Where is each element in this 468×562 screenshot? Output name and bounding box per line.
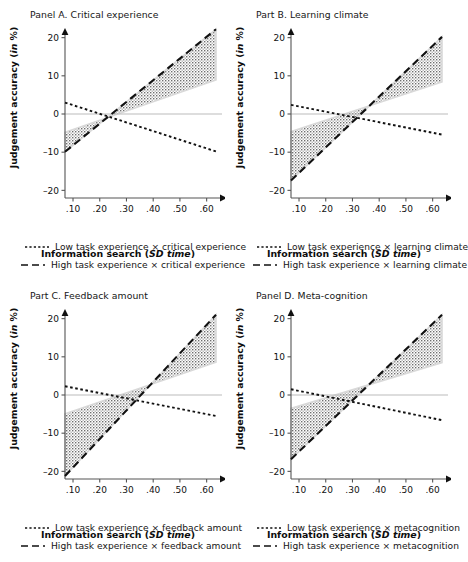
svg-text:.40: .40	[372, 485, 387, 495]
legend-item-low: Low task experience × feedback amount	[0, 519, 225, 537]
legend-label-low: Low task experience × critical experienc…	[55, 242, 246, 252]
panel-d-legend: Low task experience × metacognition High…	[226, 519, 451, 555]
legend-label-high: High task experience × critical experien…	[51, 260, 245, 270]
svg-text:10: 10	[48, 71, 60, 81]
svg-text:.30: .30	[345, 485, 360, 495]
svg-text:.10: .10	[66, 485, 81, 495]
svg-text:0: 0	[279, 390, 285, 400]
svg-text:–10: –10	[269, 428, 285, 438]
panel-d: Panel D. Meta-cognition Judgement accura…	[226, 281, 451, 562]
svg-text:.30: .30	[345, 204, 360, 214]
dashed-line-key-icon	[20, 260, 46, 270]
svg-text:10: 10	[48, 352, 60, 362]
svg-text:–10: –10	[43, 147, 59, 157]
legend-label-low: Low task experience × learning climate	[287, 242, 468, 252]
legend-item-low: Low task experience × metacognition	[226, 519, 451, 537]
dotted-line-key-icon	[256, 523, 282, 533]
svg-text:0: 0	[279, 109, 285, 119]
svg-text:.30: .30	[119, 485, 134, 495]
svg-text:–10: –10	[43, 428, 59, 438]
dotted-line-key-icon	[256, 242, 282, 252]
panel-c: Part C. Feedback amount Judgement accura…	[0, 281, 225, 562]
legend-label-high: High task experience × feedback amount	[51, 541, 241, 551]
panel-a-plot: Judgement accuracy (in %) 20100–10–20.10…	[0, 20, 225, 210]
svg-text:–10: –10	[269, 147, 285, 157]
svg-text:20: 20	[274, 33, 286, 43]
dotted-line-key-icon	[24, 523, 50, 533]
svg-text:.50: .50	[399, 485, 414, 495]
panel-a-legend: Low task experience × critical experienc…	[0, 238, 225, 274]
svg-text:.40: .40	[146, 485, 161, 495]
panel-b: Part B. Learning climate Judgement accur…	[226, 0, 451, 281]
svg-text:.30: .30	[119, 204, 134, 214]
legend-item-high: High task experience × metacognition	[226, 537, 451, 555]
svg-text:–20: –20	[269, 467, 285, 477]
svg-text:.50: .50	[173, 204, 188, 214]
panel-b-legend: Low task experience × learning climate H…	[226, 238, 451, 274]
svg-text:20: 20	[274, 314, 286, 324]
legend-item-high: High task experience × critical experien…	[0, 256, 225, 274]
legend-item-low: Low task experience × learning climate	[226, 238, 451, 256]
panel-c-title: Part C. Feedback amount	[30, 290, 148, 301]
svg-text:20: 20	[48, 33, 60, 43]
legend-item-high: High task experience × feedback amount	[0, 537, 225, 555]
legend-label-high: High task experience × metacognition	[283, 541, 459, 551]
svg-text:20: 20	[48, 314, 60, 324]
svg-text:10: 10	[274, 352, 286, 362]
svg-text:.20: .20	[319, 485, 334, 495]
legend-item-high: High task experience × learning climate	[226, 256, 451, 274]
legend-label-high: High task experience × learning climate	[283, 260, 467, 270]
svg-text:.40: .40	[372, 204, 387, 214]
legend-item-low: Low task experience × critical experienc…	[0, 238, 225, 256]
panel-d-chart-svg: 20100–10–20.10.20.30.40.50.60	[226, 301, 451, 501]
svg-text:.10: .10	[292, 485, 307, 495]
svg-text:.20: .20	[93, 485, 108, 495]
panel-c-chart-svg: 20100–10–20.10.20.30.40.50.60	[0, 301, 225, 501]
svg-text:.60: .60	[425, 485, 440, 495]
svg-text:–20: –20	[43, 186, 59, 196]
svg-text:.20: .20	[319, 204, 334, 214]
svg-text:.60: .60	[425, 204, 440, 214]
panel-b-plot: Judgement accuracy (in %) 20100–10–20.10…	[226, 20, 451, 210]
dotted-line-key-icon	[24, 242, 50, 252]
svg-text:–20: –20	[43, 467, 59, 477]
dashed-line-key-icon	[252, 260, 278, 270]
svg-text:.60: .60	[199, 485, 214, 495]
svg-text:.10: .10	[66, 204, 81, 214]
panel-d-plot: Judgement accuracy (in %) 20100–10–20.10…	[226, 301, 451, 491]
svg-text:.20: .20	[93, 204, 108, 214]
svg-text:.50: .50	[173, 485, 188, 495]
legend-label-low: Low task experience × feedback amount	[55, 523, 242, 533]
svg-text:0: 0	[53, 109, 59, 119]
panel-b-chart-svg: 20100–10–20.10.20.30.40.50.60	[226, 20, 451, 220]
svg-text:0: 0	[53, 390, 59, 400]
legend-label-low: Low task experience × metacognition	[287, 523, 460, 533]
panel-a: Panel A. Critical experience Judgement a…	[0, 0, 225, 281]
panel-b-title: Part B. Learning climate	[256, 9, 369, 20]
panel-a-title: Panel A. Critical experience	[30, 9, 159, 20]
svg-text:10: 10	[274, 71, 286, 81]
dashed-line-key-icon	[252, 541, 278, 551]
svg-text:.50: .50	[399, 204, 414, 214]
panel-a-chart-svg: 20100–10–20.10.20.30.40.50.60	[0, 20, 225, 220]
svg-text:.60: .60	[199, 204, 214, 214]
panel-d-title: Panel D. Meta-cognition	[256, 290, 368, 301]
svg-text:–20: –20	[269, 186, 285, 196]
svg-text:.10: .10	[292, 204, 307, 214]
panel-c-plot: Judgement accuracy (in %) 20100–10–20.10…	[0, 301, 225, 491]
dashed-line-key-icon	[20, 541, 46, 551]
panel-c-legend: Low task experience × feedback amount Hi…	[0, 519, 225, 555]
svg-text:.40: .40	[146, 204, 161, 214]
